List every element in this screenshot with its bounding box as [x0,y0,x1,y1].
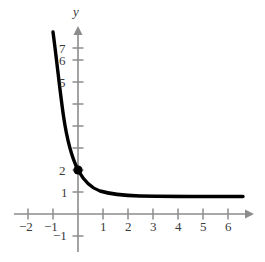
point-marker-0-2 [73,165,82,174]
y-tick-label-1: 1 [61,186,68,199]
x-tick-label-4: 4 [175,220,182,233]
x-tick-label-5: 5 [200,220,207,233]
x-tick-label-2: 2 [125,220,132,233]
y-tick-label-2: 2 [59,164,66,177]
y-tick-label-5: 5 [59,76,66,89]
x-tick-label-neg1: −1 [44,220,58,233]
x-tick-label-neg2: −2 [19,220,33,233]
x-tick-label-3: 3 [150,220,157,233]
y-axis-arrow-icon [74,26,83,35]
y-tick-label-6: 6 [59,54,66,67]
y-axis-label: y [73,5,79,18]
x-axis-arrow-icon [245,210,254,219]
x-tick-label-6: 6 [225,220,232,233]
exponential-decay-graph: y 7 6 5 2 1 −1 −2 −1 1 2 3 4 5 6 [0,0,265,262]
x-tick-label-1: 1 [100,220,107,233]
